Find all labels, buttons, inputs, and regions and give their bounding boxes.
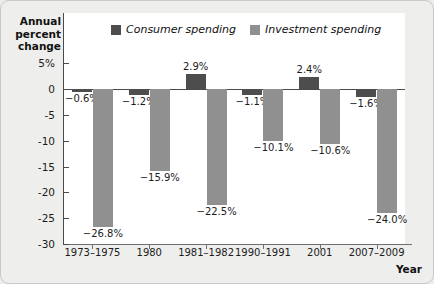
x-axis-line [63, 244, 412, 245]
y-tick-label: -30 [38, 239, 55, 249]
bar-value-label: −24.0% [360, 214, 414, 225]
legend-swatch-investment [250, 25, 260, 35]
bar-consumer [186, 74, 206, 89]
bar-value-label: 2.9% [169, 61, 223, 72]
y-axis-line [63, 13, 64, 245]
bar-consumer [72, 89, 92, 92]
x-axis-title: Year [1, 263, 422, 275]
y-tick-mark [63, 167, 69, 168]
bar-consumer [129, 89, 149, 95]
y-tick-label: -15 [38, 162, 55, 172]
y-tick-label: -25 [38, 213, 55, 223]
bar-consumer [242, 89, 262, 95]
bar-investment [320, 89, 340, 144]
y-tick-mark [63, 141, 69, 142]
legend-item-consumer: Consumer spending [111, 23, 236, 36]
y-tick-mark [63, 218, 69, 219]
bar-value-label: −15.9% [133, 172, 187, 183]
bar-investment [93, 89, 113, 227]
chart-frame: Annual percent change Consumer spending … [0, 0, 434, 284]
bar-value-label: −22.5% [190, 206, 244, 217]
bar-consumer [299, 77, 319, 89]
y-tick-mark [63, 89, 69, 90]
legend-label-consumer: Consumer spending [126, 23, 236, 36]
y-tick-mark [63, 244, 69, 245]
legend-label-investment: Investment spending [265, 23, 381, 36]
bar-investment [263, 89, 283, 141]
chart-legend: Consumer spending Investment spending [111, 23, 381, 36]
bar-value-label: −10.1% [246, 142, 300, 153]
y-tick-label: -5 [45, 110, 55, 120]
y-tick-label: -20 [38, 187, 55, 197]
legend-swatch-consumer [111, 25, 121, 35]
zero-baseline [63, 89, 405, 90]
y-tick-mark [63, 63, 69, 64]
x-category-label: 2007–2009 [342, 247, 412, 258]
legend-item-investment: Investment spending [250, 23, 381, 36]
bar-investment [377, 89, 397, 213]
bar-value-label: 2.4% [282, 64, 336, 75]
y-tick-mark [63, 192, 69, 193]
bar-value-label: −10.6% [303, 145, 357, 156]
bar-value-label: −26.8% [76, 228, 130, 239]
bar-investment [150, 89, 170, 171]
bar-consumer [356, 89, 376, 97]
y-axis-title: Annual percent change [9, 15, 61, 53]
y-tick-mark [63, 115, 69, 116]
y-tick-label: 5% [38, 58, 55, 68]
bar-investment [207, 89, 227, 205]
y-tick-label: -10 [38, 136, 55, 146]
